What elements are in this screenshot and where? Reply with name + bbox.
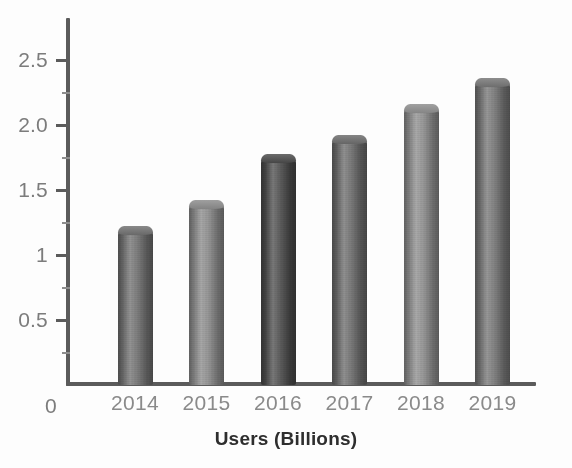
bar-texture bbox=[404, 104, 439, 385]
bar bbox=[189, 200, 224, 385]
y-axis-tick-label: 0.5 bbox=[2, 309, 48, 330]
bar bbox=[475, 78, 510, 385]
x-axis-category-label: 2017 bbox=[310, 392, 390, 413]
bar-top-cap bbox=[189, 200, 224, 209]
x-axis-category-label: 2018 bbox=[381, 392, 461, 413]
x-axis-category-label: 2016 bbox=[238, 392, 318, 413]
bar-top-cap bbox=[261, 154, 296, 163]
bar-top-cap bbox=[404, 104, 439, 113]
y-axis-tick-label: 2.0 bbox=[2, 114, 48, 135]
x-axis-category-label: 2015 bbox=[167, 392, 247, 413]
bar bbox=[404, 104, 439, 385]
bar-texture bbox=[261, 154, 296, 385]
bar-texture bbox=[332, 135, 367, 385]
bar bbox=[118, 226, 153, 385]
x-axis-title: Users (Billions) bbox=[0, 428, 572, 450]
x-axis-category-label: 2019 bbox=[453, 392, 533, 413]
plot-area bbox=[68, 18, 554, 385]
bar-top-cap bbox=[118, 226, 153, 235]
bar-texture bbox=[118, 226, 153, 385]
bar-texture bbox=[189, 200, 224, 385]
x-axis-category-label: 2014 bbox=[95, 392, 175, 413]
y-axis-tick-label: 0 bbox=[28, 395, 74, 416]
y-axis-tick-label: 1.5 bbox=[2, 179, 48, 200]
bar-top-cap bbox=[332, 135, 367, 144]
bar-chart: 2.52.01.510.50 201420152016201720182019 … bbox=[0, 0, 572, 468]
bar-texture bbox=[475, 78, 510, 385]
y-axis-tick-label: 2.5 bbox=[2, 49, 48, 70]
bar bbox=[261, 154, 296, 385]
y-axis-tick-label: 1 bbox=[2, 244, 48, 265]
bar bbox=[332, 135, 367, 385]
bar-top-cap bbox=[475, 78, 510, 87]
